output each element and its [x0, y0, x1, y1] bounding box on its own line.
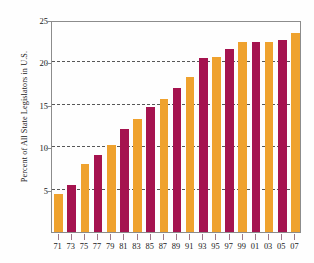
bar-01 — [252, 42, 261, 232]
x-tick-mark-77 — [97, 234, 98, 240]
bar-85 — [146, 107, 155, 233]
bar-87 — [160, 99, 169, 232]
y-tick-label-5: 5 — [8, 186, 48, 196]
x-tick-mark-91 — [189, 234, 190, 240]
x-tick-mark-73 — [71, 234, 72, 240]
bar-81 — [120, 129, 129, 232]
y-tick-label-15: 15 — [8, 101, 48, 111]
y-tick-label-10: 10 — [8, 143, 48, 153]
bar-77 — [94, 155, 103, 232]
bar-chart-figure: Percent of All State Legislators in U.S.… — [0, 0, 314, 263]
bar-07 — [291, 33, 300, 232]
bar-73 — [67, 185, 76, 232]
x-tick-mark-85 — [150, 234, 151, 240]
bar-83 — [133, 119, 142, 232]
x-tick-mark-93 — [202, 234, 203, 240]
bar-71 — [54, 194, 63, 232]
x-tick-mark-79 — [110, 234, 111, 240]
y-tick-label-20: 20 — [8, 58, 48, 68]
x-tick-mark-83 — [137, 234, 138, 240]
bar-89 — [173, 88, 182, 232]
y-tick-label-25: 25 — [8, 16, 48, 26]
bar-99 — [238, 42, 247, 232]
x-tick-mark-95 — [215, 234, 216, 240]
x-tick-mark-75 — [84, 234, 85, 240]
bar-03 — [265, 42, 274, 232]
bar-05 — [278, 40, 287, 232]
bar-75 — [81, 164, 90, 232]
x-tick-label-07: 07 — [283, 242, 305, 251]
x-tick-mark-01 — [255, 234, 256, 240]
plot-area — [51, 21, 301, 233]
bar-91 — [186, 77, 195, 232]
x-tick-mark-71 — [58, 234, 59, 240]
x-tick-mark-07 — [294, 234, 295, 240]
x-tick-mark-87 — [163, 234, 164, 240]
x-tick-mark-97 — [229, 234, 230, 240]
x-tick-mark-89 — [176, 234, 177, 240]
bar-97 — [225, 49, 234, 232]
x-tick-mark-81 — [123, 234, 124, 240]
x-tick-mark-05 — [281, 234, 282, 240]
x-tick-mark-99 — [242, 234, 243, 240]
bar-93 — [199, 58, 208, 232]
bar-95 — [212, 57, 221, 232]
bars-layer — [52, 22, 300, 232]
bar-79 — [107, 145, 116, 232]
x-tick-mark-03 — [268, 234, 269, 240]
